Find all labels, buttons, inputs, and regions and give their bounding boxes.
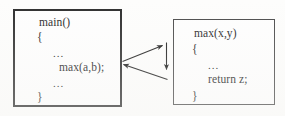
main-function-code: main() { ... max(a,b); ... } bbox=[15, 11, 120, 105]
call-arrow bbox=[123, 46, 163, 62]
code-line-max-signature: max(x,y) bbox=[194, 27, 237, 39]
code-line-main-signature: main() bbox=[39, 16, 70, 28]
code-line-main-close-brace: } bbox=[37, 91, 43, 103]
return-arrow bbox=[124, 65, 168, 80]
max-function-code: max(x,y) { ... return z; } bbox=[174, 20, 274, 104]
diagram-canvas: main() { ... max(a,b); ... } max(x,y) { … bbox=[0, 0, 285, 116]
code-line-max-ellipsis: ... bbox=[208, 59, 219, 71]
max-function-box: max(x,y) { ... return z; } bbox=[173, 19, 275, 105]
code-line-main-call: max(a,b); bbox=[59, 61, 104, 73]
code-line-main-ellipsis-top: ... bbox=[53, 47, 64, 59]
code-line-max-return: return z; bbox=[208, 73, 248, 85]
code-line-main-open-brace: { bbox=[37, 31, 43, 43]
main-function-box: main() { ... max(a,b); ... } bbox=[13, 9, 122, 107]
code-line-max-open-brace: { bbox=[192, 43, 198, 55]
code-line-main-ellipsis-bottom: ... bbox=[53, 77, 64, 89]
code-line-max-close-brace: } bbox=[192, 90, 198, 102]
